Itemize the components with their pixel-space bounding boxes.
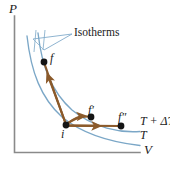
pv-diagram-figure: P V Isotherms f i f′ f″ T + ΔT T [0,0,170,170]
isotherm-label-T-plus-delta-T: T + ΔT [140,115,170,127]
y-axis-label: P [9,2,17,15]
leader-tick-lower [43,30,45,50]
x-axis-label: V [144,143,152,156]
state-label-f-prime: f′ [88,104,94,116]
process-path-i-to-f [45,65,66,125]
isotherm-label-T: T [140,129,147,141]
state-label-f: f [50,52,53,64]
state-label-i: i [61,128,64,140]
process-paths [45,65,121,127]
leader-line-lower [44,34,72,50]
isotherm-curve-T [27,36,140,146]
state-point-f [41,59,48,66]
state-label-f-double-prime: f″ [118,111,126,123]
state-points [41,59,125,130]
isotherms-annotation-label: Isotherms [74,27,119,39]
leader-tick-upper [34,30,36,52]
